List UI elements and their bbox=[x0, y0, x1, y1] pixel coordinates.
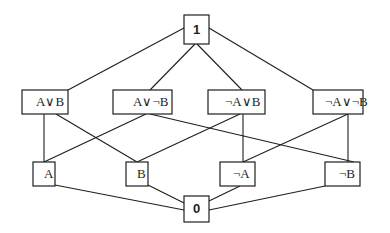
edge-AorB-to-B bbox=[56, 114, 137, 162]
edge-top-to-AorB bbox=[68, 28, 184, 90]
node-B: B bbox=[126, 162, 148, 186]
node-label: ¬A bbox=[233, 166, 250, 181]
edge-A-to-bottom bbox=[55, 185, 184, 210]
edge-AorNotB-to-NotB bbox=[150, 114, 354, 162]
nodes-layer: 1A∨BA∨¬B¬A∨B¬A∨¬BAB¬A¬B0 bbox=[22, 15, 368, 222]
node-label: 1 bbox=[193, 22, 200, 37]
node-AorB: A∨B bbox=[22, 90, 68, 114]
node-label: ¬A∨¬B bbox=[325, 94, 368, 109]
node-top: 1 bbox=[184, 15, 209, 44]
edges-layer bbox=[44, 28, 354, 210]
edge-NotAorNotB-to-NotA bbox=[243, 114, 348, 162]
edge-NotAorB-to-B bbox=[137, 114, 240, 162]
edge-NotB-to-bottom bbox=[209, 186, 325, 210]
node-label: A∨B bbox=[36, 94, 64, 109]
node-A: A bbox=[33, 162, 55, 186]
lattice-diagram: 1A∨BA∨¬B¬A∨B¬A∨¬BAB¬A¬B0 bbox=[0, 0, 390, 233]
node-label: A∨¬B bbox=[133, 94, 169, 109]
node-label: 0 bbox=[193, 201, 200, 216]
node-NotB: ¬B bbox=[325, 162, 360, 186]
node-AorNotB: A∨¬B bbox=[113, 90, 172, 114]
edge-AorNotB-to-A bbox=[44, 114, 146, 162]
node-bottom: 0 bbox=[184, 196, 209, 222]
node-NotAorNotB: ¬A∨¬B bbox=[313, 90, 368, 114]
edge-top-to-NotAorNotB bbox=[209, 28, 313, 90]
edge-top-to-NotAorB bbox=[197, 44, 242, 90]
node-label: ¬A∨B bbox=[225, 94, 261, 109]
node-label: A bbox=[44, 166, 54, 181]
node-NotAorB: ¬A∨B bbox=[208, 90, 265, 114]
node-label: B bbox=[137, 166, 146, 181]
node-NotA: ¬A bbox=[220, 162, 255, 186]
edge-B-to-bottom bbox=[148, 185, 184, 203]
node-label: ¬B bbox=[339, 166, 355, 181]
edge-top-to-AorNotB bbox=[150, 44, 195, 90]
edge-NotA-to-bottom bbox=[209, 186, 240, 201]
